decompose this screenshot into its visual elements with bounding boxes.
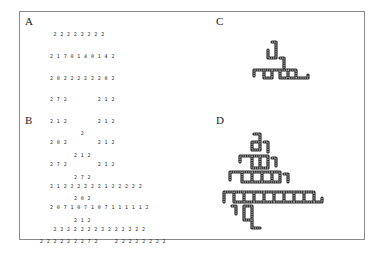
panel-label-a: A (25, 15, 33, 27)
panel-label-b: B (25, 114, 32, 126)
grid-row: 2 2 2 2 2 2 2 7 2 2 2 2 2 2 2 2 2 (33, 238, 207, 245)
chain-structure-c (250, 36, 330, 86)
grid-row: 2 7 2 2 1 2 (50, 96, 149, 103)
grid-row: 2 1 7 0 1 4 0 1 4 2 (50, 53, 149, 60)
grid-row: 2 7 2 (33, 174, 207, 181)
grid-row: 2 1 2 (33, 152, 207, 159)
grid-row: 2 0 2 (33, 195, 207, 202)
grid-row: 2 2 2 2 2 2 2 2 (50, 31, 149, 38)
grid-row: 2 1 2 (33, 217, 207, 224)
panel-label-c: C (216, 15, 223, 27)
chain-structure-d (222, 128, 362, 238)
panel-label-d: D (216, 114, 224, 126)
grid-b: 2 2 1 2 2 7 2 2 0 2 2 1 2 2 2 2 2 2 2 2 … (33, 116, 207, 253)
grid-row: 2 (33, 130, 207, 137)
grid-row: 2 0 2 2 2 2 2 2 0 2 (50, 75, 149, 82)
